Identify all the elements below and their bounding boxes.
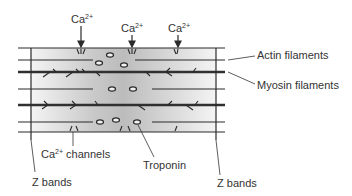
ca-label-2: Ca2+ bbox=[121, 22, 143, 34]
ca-label-1: Ca2+ bbox=[71, 13, 93, 25]
z-bands-left-label: Z bands bbox=[32, 177, 72, 188]
troponin-label: Troponin bbox=[143, 160, 186, 171]
z-bands-right-label: Z bands bbox=[217, 178, 257, 189]
ca-label-sup: 2+ bbox=[85, 13, 93, 20]
ca-label-sup: 2+ bbox=[135, 22, 143, 29]
ca-label-base: Ca bbox=[41, 148, 55, 160]
channels-text: channels bbox=[63, 148, 110, 160]
ca-label-sup: 2+ bbox=[182, 22, 190, 29]
ca-label-base: Ca bbox=[121, 22, 135, 34]
ca-label-sup: 2+ bbox=[55, 148, 63, 155]
ca-label-base: Ca bbox=[71, 13, 85, 25]
ca-label-base: Ca bbox=[168, 22, 182, 34]
ca-channels-label: Ca2+ channels bbox=[41, 148, 110, 160]
ca-label-3: Ca2+ bbox=[168, 22, 190, 34]
actin-filaments-label: Actin filaments bbox=[257, 50, 329, 61]
myosin-filaments-label: Myosin filaments bbox=[257, 80, 339, 91]
